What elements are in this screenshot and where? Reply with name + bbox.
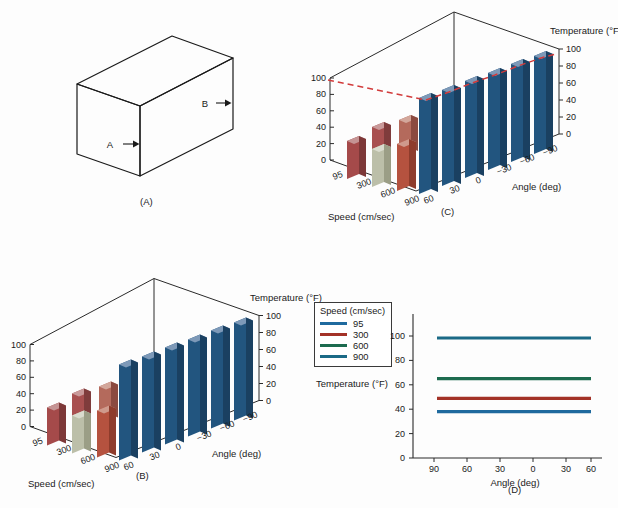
panel-c-angle-30: 30 xyxy=(448,183,461,196)
panel-c-left-axis: 0 20 40 60 80 100 xyxy=(311,73,334,165)
panel-c-yaxis-title: Angle (deg) xyxy=(512,181,561,192)
panel-d-line-chart: 0 20 40 60 80 100 90 60 30 0 30 60 Angle… xyxy=(310,288,615,503)
panel-c-rtick-0: 0 xyxy=(566,129,571,139)
panel-b-ztick-60: 60 xyxy=(16,372,26,382)
panel-b-caption: (B) xyxy=(136,470,149,481)
panel-c-caption: (C) xyxy=(441,206,454,217)
panel-b-rtick-100: 100 xyxy=(266,311,281,321)
box-right-face xyxy=(140,58,233,176)
bar-row-blue xyxy=(119,318,253,461)
panel-c-xaxis-title: Speed (cm/sec) xyxy=(328,211,395,222)
panel-c-ztick-80: 80 xyxy=(316,89,326,99)
arrow-a xyxy=(123,141,140,148)
panel-b-speed-900: 900 xyxy=(103,460,121,475)
panel-d-xtick-30a: 30 xyxy=(495,464,505,474)
panel-c-speed-300: 300 xyxy=(355,176,373,191)
panel-d-xtick-marks xyxy=(434,458,591,462)
panel-d-ytick-0: 0 xyxy=(400,453,405,463)
panel-b-ztick-100: 100 xyxy=(11,340,26,350)
panel-d-xtick-0: 0 xyxy=(530,464,535,474)
panel-b-left-axis: 0 20 40 60 80 100 xyxy=(11,340,34,432)
panel-d-xtick-60b: 60 xyxy=(586,464,596,474)
panel-b-bars xyxy=(47,318,253,461)
panel-b-rtick-0: 0 xyxy=(266,396,271,406)
panel-b-angle-30: 30 xyxy=(148,449,161,462)
panel-b-ztick-80: 80 xyxy=(16,356,26,366)
panel-c-zaxis-title: Temperature (°F) xyxy=(550,25,618,36)
panel-a-caption: (A) xyxy=(140,196,153,207)
panel-c: 0 20 40 60 80 100 0 20 40 60 80 100 Temp… xyxy=(306,8,616,223)
panel-a: A B (A) xyxy=(30,14,290,214)
panel-c-speed-900: 900 xyxy=(403,193,421,208)
panel-c-rtick-20: 20 xyxy=(566,112,576,122)
panel-b-ztick-20: 20 xyxy=(16,405,26,415)
panel-c-bars xyxy=(347,51,553,194)
panel-d-ytick-100: 100 xyxy=(390,331,405,341)
panel-c-angle-0: 0 xyxy=(474,175,482,186)
panel-b-speed-300: 300 xyxy=(55,443,73,458)
panel-d-ytick-40: 40 xyxy=(395,404,405,414)
panel-d-xtick-90: 90 xyxy=(429,464,439,474)
panel-d-axes xyxy=(413,314,602,458)
panel-c-speed-95: 95 xyxy=(331,169,344,182)
panel-c-rtick-40: 40 xyxy=(566,95,576,105)
panel-c-rtick-100: 100 xyxy=(566,44,581,54)
panel-d-xtick-60a: 60 xyxy=(462,464,472,474)
panel-a-label-b: B xyxy=(202,98,208,109)
panel-d-ytick-80: 80 xyxy=(395,355,405,365)
panel-c-ztick-100: 100 xyxy=(311,73,326,83)
panel-c-angle-60: 60 xyxy=(422,193,435,206)
panel-c-ztick-20: 20 xyxy=(316,139,326,149)
panel-c-ztick-40: 40 xyxy=(316,122,326,132)
panel-c-rtick-60: 60 xyxy=(566,78,576,88)
panel-b-speed-95: 95 xyxy=(31,435,44,448)
box-top-face xyxy=(77,36,233,106)
panel-d-ytick-20: 20 xyxy=(395,429,405,439)
panel-c-ztick-60: 60 xyxy=(316,106,326,116)
bar-row-blue xyxy=(419,51,553,194)
panel-c-right-axis: 0 20 40 60 80 100 Temperature (°F) xyxy=(550,25,618,139)
panel-d-xtick-30b: 30 xyxy=(561,464,571,474)
panel-c-rtick-80: 80 xyxy=(566,61,576,71)
panel-c-ztick-0: 0 xyxy=(321,155,326,165)
panel-a-label-a: A xyxy=(107,139,114,150)
panel-d-series-lines xyxy=(437,338,591,412)
panel-d-ytick-marks xyxy=(409,336,413,458)
panel-b-ztick-0: 0 xyxy=(21,422,26,432)
panel-b-xaxis-title: Speed (cm/sec) xyxy=(28,478,95,489)
panel-b-rtick-80: 80 xyxy=(266,328,276,338)
panel-b-yaxis-title: Angle (deg) xyxy=(212,448,261,459)
panel-d-ytick-60: 60 xyxy=(395,380,405,390)
panel-b-3d-bar-chart: 0 20 40 60 80 100 0 20 40 60 80 100 Temp… xyxy=(6,272,316,492)
panel-b-rtick-20: 20 xyxy=(266,379,276,389)
panel-d: Speed (cm/sec) 95 300 600 900 Temperatur… xyxy=(310,288,615,503)
panel-b-ztick-40: 40 xyxy=(16,389,26,399)
panel-a-box-diagram: A B xyxy=(30,14,290,214)
panel-b-speed-600: 600 xyxy=(79,452,97,467)
panel-b: 0 20 40 60 80 100 0 20 40 60 80 100 Temp… xyxy=(6,272,316,492)
panel-b-rtick-40: 40 xyxy=(266,362,276,372)
panel-d-caption: (D) xyxy=(508,484,521,495)
panel-c-speed-600: 600 xyxy=(379,185,397,200)
panel-b-rtick-60: 60 xyxy=(266,345,276,355)
panel-b-angle-60: 60 xyxy=(122,459,135,472)
panel-c-3d-bar-chart: 0 20 40 60 80 100 0 20 40 60 80 100 Temp… xyxy=(306,8,616,223)
box-front-face xyxy=(77,84,140,176)
panel-b-angle-0: 0 xyxy=(174,441,182,452)
arrow-b xyxy=(216,100,232,107)
